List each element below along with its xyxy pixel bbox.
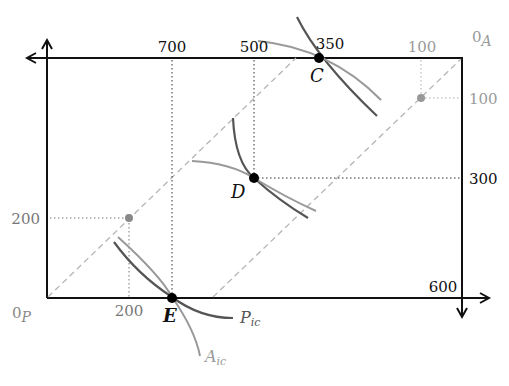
top-label-500: 500 (240, 38, 269, 56)
point-d-label: D (230, 181, 246, 202)
point-e (167, 293, 177, 303)
left-label-200: 200 (11, 210, 40, 228)
producer-indifference-curve-d (233, 118, 308, 218)
origin-producer-label: 0P (12, 304, 32, 325)
bottom-label-600: 600 (429, 278, 458, 296)
top-label-700: 700 (158, 38, 187, 56)
endowment-point-right (417, 94, 425, 102)
top-label-350: 350 (316, 35, 345, 53)
consumer-curve-label: Aic (203, 347, 226, 368)
top-label-100: 100 (408, 38, 437, 56)
right-label-100: 100 (469, 90, 498, 108)
endowment-point-left (125, 214, 133, 222)
point-c-label: C (310, 65, 324, 86)
point-c (314, 53, 324, 63)
right-label-300: 300 (469, 170, 498, 188)
bottom-label-200: 200 (115, 302, 144, 320)
origin-consumer-label: 0A (472, 28, 492, 49)
edgeworth-box-diagram: 700 500 350 100 100 300 200 200 600 0P 0… (0, 0, 509, 386)
point-d (249, 173, 259, 183)
consumer-indifference-curve-e (118, 237, 200, 356)
point-e-label: E (162, 305, 177, 326)
producer-curve-label: Pic (239, 308, 260, 329)
